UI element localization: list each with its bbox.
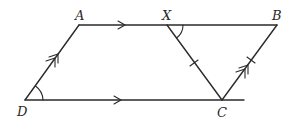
angle-arc-X [177,25,184,38]
label-D: D [16,104,28,119]
segment-CB [222,25,277,100]
label-X: X [161,8,172,23]
label-A: A [74,8,84,23]
label-B: B [271,8,282,23]
parallelogram-diagram: A X B D C [0,0,294,123]
angle-arc-D [36,86,44,100]
label-C: C [217,105,227,120]
segment-DA [25,25,79,100]
equal-tick-CB [247,57,255,63]
